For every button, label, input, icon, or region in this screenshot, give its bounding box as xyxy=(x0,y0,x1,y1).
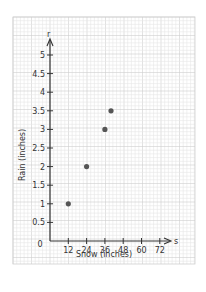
y-tick-label: 5 xyxy=(40,51,45,60)
y-tick-label: 0.5 xyxy=(32,218,45,227)
y-tick-label: 4.5 xyxy=(32,70,45,79)
y-axis-title: Rain (inches) xyxy=(18,129,27,181)
origin-label: 0 xyxy=(37,240,42,249)
data-point xyxy=(84,164,89,169)
x-tick-label: 12 xyxy=(63,246,73,255)
y-tick-label: 1.5 xyxy=(32,181,45,190)
data-point xyxy=(66,201,71,206)
y-tick-label: 3.5 xyxy=(32,107,45,116)
x-tick-label: 72 xyxy=(155,246,165,255)
y-tick-label: 3 xyxy=(40,125,45,134)
data-point xyxy=(108,108,113,113)
y-axis-variable: r xyxy=(47,30,51,39)
x-tick-label: 60 xyxy=(136,246,146,255)
x-axis-variable: s xyxy=(174,237,178,246)
x-axis-title: Snow (inches) xyxy=(76,250,132,259)
y-tick-label: 2.5 xyxy=(32,144,45,153)
data-point xyxy=(102,127,107,132)
y-tick-label: 2 xyxy=(40,163,45,172)
y-tick-label: 4 xyxy=(40,88,45,97)
scatter-chart: 1224364860720.511.522.533.544.55 Snow (i… xyxy=(0,0,206,292)
y-tick-label: 1 xyxy=(40,200,45,209)
